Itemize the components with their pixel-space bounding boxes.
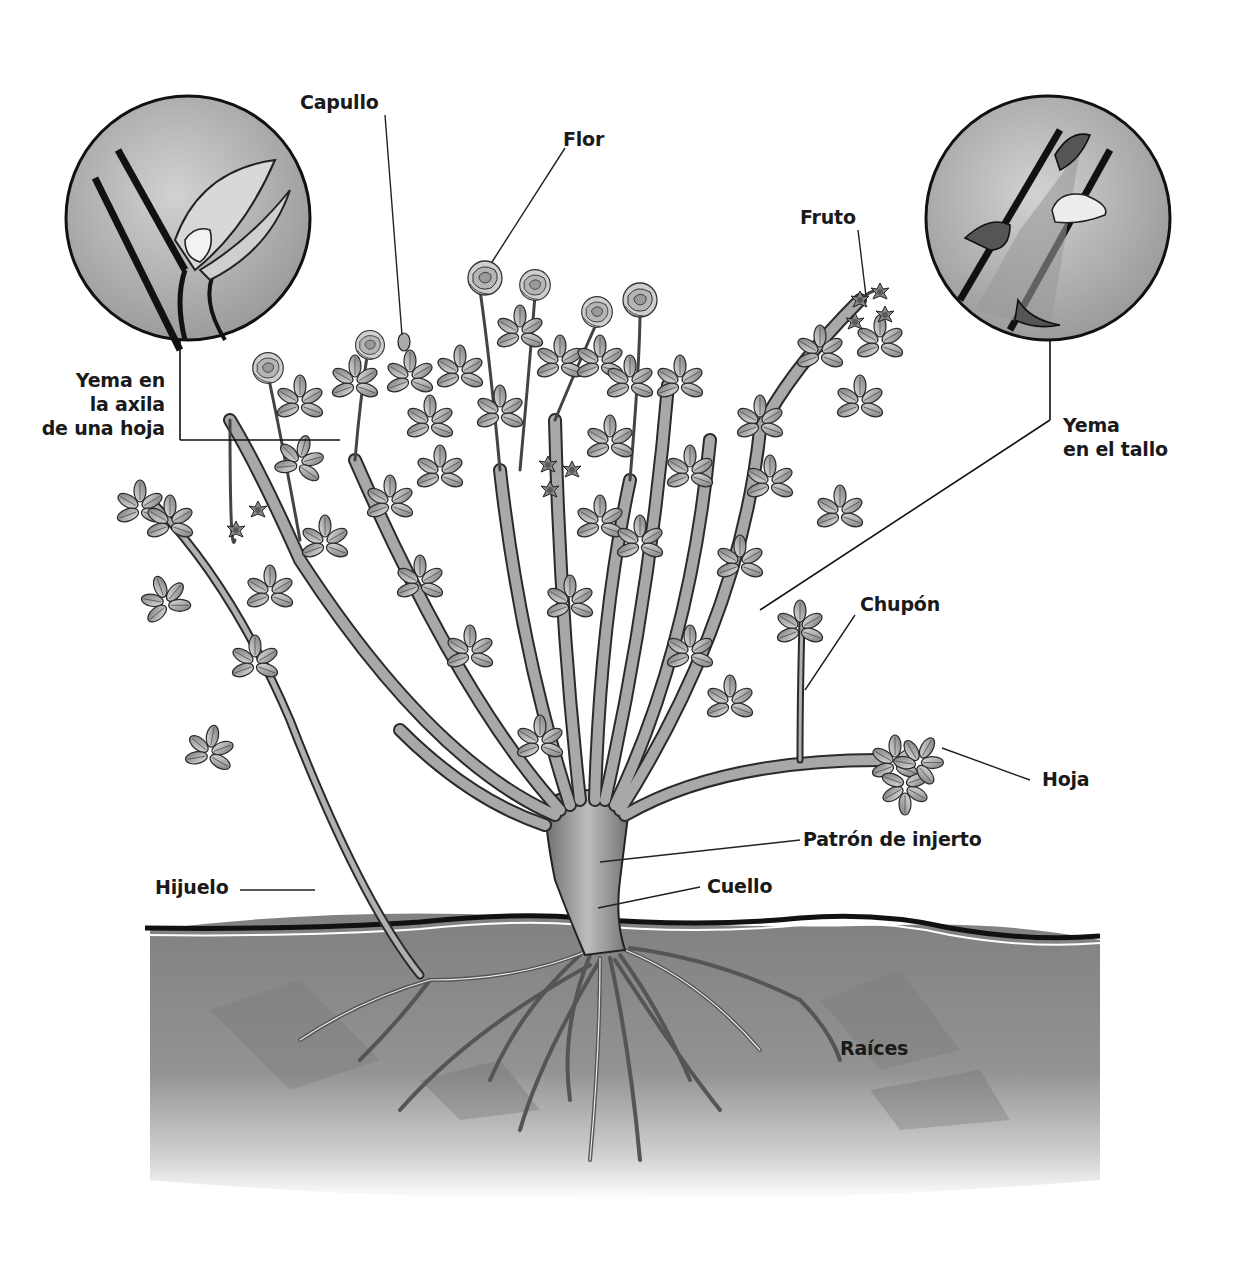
yema-tallo-inset — [760, 96, 1170, 610]
label-raices: Raíces — [840, 1036, 908, 1060]
canes — [150, 290, 880, 975]
foliage — [115, 305, 953, 815]
label-fruto: Fruto — [800, 205, 856, 229]
rose-plant-diagram: Capullo Flor Fruto Yema en la axila de u… — [0, 0, 1238, 1270]
label-capullo: Capullo — [300, 90, 379, 114]
label-hijuelo: Hijuelo — [155, 875, 229, 899]
diagram-artwork — [0, 0, 1238, 1270]
label-yema-tallo: Yema en el tallo — [1063, 413, 1168, 461]
rosebud — [398, 333, 410, 351]
label-patron-injerto: Patrón de injerto — [803, 827, 982, 851]
label-chupon: Chupón — [860, 592, 940, 616]
label-flor: Flor — [563, 127, 604, 151]
label-yema-axila: Yema en la axila de una hoja — [40, 368, 165, 440]
label-cuello: Cuello — [707, 874, 772, 898]
label-hoja: Hoja — [1042, 767, 1090, 791]
